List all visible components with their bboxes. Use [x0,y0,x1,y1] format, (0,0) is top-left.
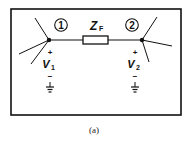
svg-text:F: F [99,25,104,32]
node-2-label: 2 [129,20,135,31]
node-2-dot [140,38,144,42]
node-1-label: 1 [58,20,64,31]
figure-caption: (a) [89,125,99,135]
svg-text:+: + [133,48,138,57]
ground-icon [131,82,139,92]
svg-text:−: − [133,72,138,81]
svg-text:V: V [42,58,51,70]
circuit-diagram: Z F 1 2 + V 1 − + V 2 − [0,0,186,147]
impedance-label: Z F [89,19,104,33]
node-1-dot [47,38,51,42]
svg-text:2: 2 [136,64,140,71]
svg-text:Z: Z [89,19,98,33]
node-2-branches [142,17,172,62]
impedance-zf [83,36,108,44]
svg-text:1: 1 [51,64,55,71]
ground-icon [46,82,54,92]
svg-text:+: + [48,48,53,57]
svg-text:V: V [127,58,136,70]
voltage-v1: + V 1 − [42,48,55,81]
voltage-v2: + V 2 − [127,48,140,81]
svg-text:−: − [48,72,53,81]
